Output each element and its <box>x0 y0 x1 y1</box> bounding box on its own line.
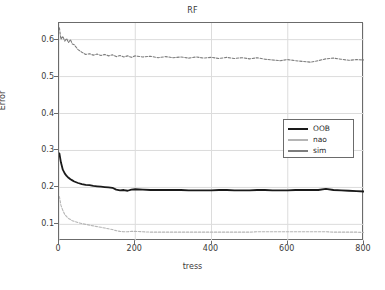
legend-swatch-icon <box>288 150 308 152</box>
x-axis-label: tress <box>0 262 385 271</box>
x-tick-label: 400 <box>203 244 218 253</box>
legend-swatch-icon <box>288 128 308 130</box>
y-tick-label: 0.5 <box>24 71 54 80</box>
y-axis-label: Error <box>0 71 7 131</box>
legend[interactable]: OOBnaosim <box>283 119 354 158</box>
y-tick-label: 0.4 <box>24 108 54 117</box>
legend-swatch-icon <box>288 139 308 141</box>
legend-item-OOB[interactable]: OOB <box>284 123 353 134</box>
legend-label: nao <box>313 134 327 145</box>
x-tick-label: 0 <box>55 244 60 253</box>
y-tick-label: 0.2 <box>24 182 54 191</box>
series-line-nao <box>59 197 364 233</box>
y-tick-label: 0.6 <box>24 34 54 43</box>
x-tick-label: 600 <box>279 244 294 253</box>
series-line-sim <box>59 28 364 62</box>
legend-item-nao[interactable]: nao <box>284 134 353 145</box>
y-tick-label: 0.3 <box>24 145 54 154</box>
y-tick-label: 0.1 <box>24 219 54 228</box>
x-tick-label: 200 <box>127 244 142 253</box>
chart-figure: RF Error tress 0.10.20.30.40.50.6 020040… <box>0 0 385 290</box>
legend-label: OOB <box>313 123 330 134</box>
x-tick-label: 800 <box>355 244 370 253</box>
legend-label: sim <box>313 145 326 156</box>
chart-title: RF <box>0 6 385 15</box>
series-line-OOB <box>59 153 364 191</box>
y-axis-tick-labels: 0.10.20.30.40.50.6 <box>22 0 54 290</box>
legend-item-sim[interactable]: sim <box>284 145 353 156</box>
